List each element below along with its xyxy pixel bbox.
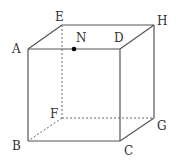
label-n: N bbox=[76, 31, 87, 45]
label-e: E bbox=[55, 10, 64, 24]
label-c: C bbox=[124, 144, 133, 158]
point-n bbox=[72, 47, 77, 52]
cube-diagram: A E N D H F G B C bbox=[0, 0, 176, 161]
edge-cg bbox=[120, 118, 154, 141]
label-d: D bbox=[114, 31, 124, 45]
label-g: G bbox=[157, 119, 167, 133]
label-a: A bbox=[11, 42, 21, 56]
edge-ae bbox=[28, 25, 62, 49]
label-b: B bbox=[12, 139, 21, 153]
edge-dh bbox=[120, 25, 154, 49]
hidden-edge-fb bbox=[28, 118, 62, 141]
label-h: H bbox=[157, 14, 167, 28]
label-f: F bbox=[50, 107, 58, 121]
